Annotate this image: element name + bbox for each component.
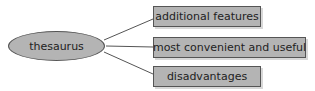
branch-node-disadvantages: disadvantages xyxy=(153,66,261,87)
branch-label: most convenient and useful xyxy=(153,41,306,54)
branch-node-additional-features: additional features xyxy=(153,6,261,27)
branch-node-most-convenient: most convenient and useful xyxy=(153,37,306,58)
branch-label: disadvantages xyxy=(167,70,247,83)
connector-line-1 xyxy=(104,19,153,40)
connector-line-3 xyxy=(104,52,153,74)
connector-line-2 xyxy=(106,46,153,47)
branch-label: additional features xyxy=(155,10,259,23)
central-node: thesaurus xyxy=(8,31,105,61)
central-node-label: thesaurus xyxy=(29,40,84,53)
